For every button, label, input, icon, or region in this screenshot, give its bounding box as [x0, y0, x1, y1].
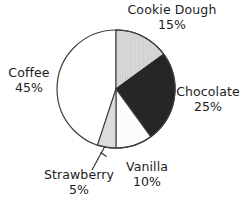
pie-label-chocolate: Chocolate 25%: [170, 85, 243, 115]
pie-label-coffee-percent: 45%: [0, 81, 60, 96]
pie-chart: Cookie Dough 15% Chocolate 25% Coffee 45…: [0, 0, 243, 206]
pie-label-vanilla-name: Vanilla: [116, 160, 178, 175]
pie-label-chocolate-percent: 25%: [170, 100, 243, 115]
pie-label-cookie-dough: Cookie Dough 15%: [110, 3, 234, 33]
pie-label-cookie-dough-name: Cookie Dough: [110, 3, 234, 18]
pie-label-vanilla: Vanilla 10%: [116, 160, 178, 190]
pie-label-strawberry-percent: 5%: [36, 183, 122, 198]
pie-label-coffee: Coffee 45%: [0, 66, 60, 96]
pie-label-strawberry-name: Strawberry: [36, 168, 122, 183]
pie-label-cookie-dough-percent: 15%: [110, 18, 234, 33]
pie-label-vanilla-percent: 10%: [116, 175, 178, 190]
pie-label-coffee-name: Coffee: [0, 66, 60, 81]
pie-slice-strawberry[interactable]: [98, 89, 117, 148]
pie-label-chocolate-name: Chocolate: [170, 85, 243, 100]
pie-label-strawberry: Strawberry 5%: [36, 168, 122, 198]
strawberry-leader-tick: [101, 153, 107, 157]
